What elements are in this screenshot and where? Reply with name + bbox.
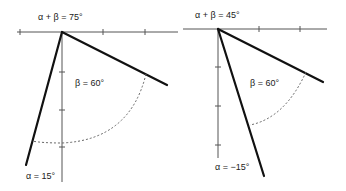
sum-label: α + β = 75° [38,12,83,22]
angle-diagrams: α + β = 75° β = 60° α = 15° α + β = 45° … [0,0,346,191]
diagram-left: α + β = 75° β = 60° α = 15° [17,12,178,182]
beta-arm [218,29,323,82]
alpha-label: α = 15° [26,171,55,181]
alpha-arm [218,29,264,176]
alpha-label: α = −15° [215,162,250,172]
alpha-arm [26,32,62,165]
sum-label: α + β = 45° [195,10,240,20]
diagram-right: α + β = 45° β = 60° α = −15° [183,10,327,176]
beta-label: β = 60° [75,78,104,88]
beta-label: β = 60° [250,78,279,88]
